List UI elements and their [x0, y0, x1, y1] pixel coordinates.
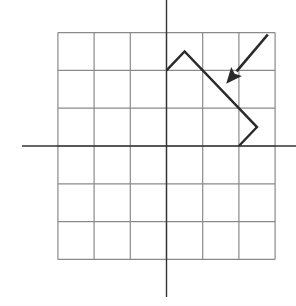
coordinate-grid-diagram	[0, 0, 296, 306]
arrow-shaft	[237, 34, 268, 71]
bent-path-shape	[167, 52, 258, 147]
grid-figure	[0, 0, 296, 306]
axes	[22, 0, 296, 297]
arrow-icon	[226, 34, 268, 83]
